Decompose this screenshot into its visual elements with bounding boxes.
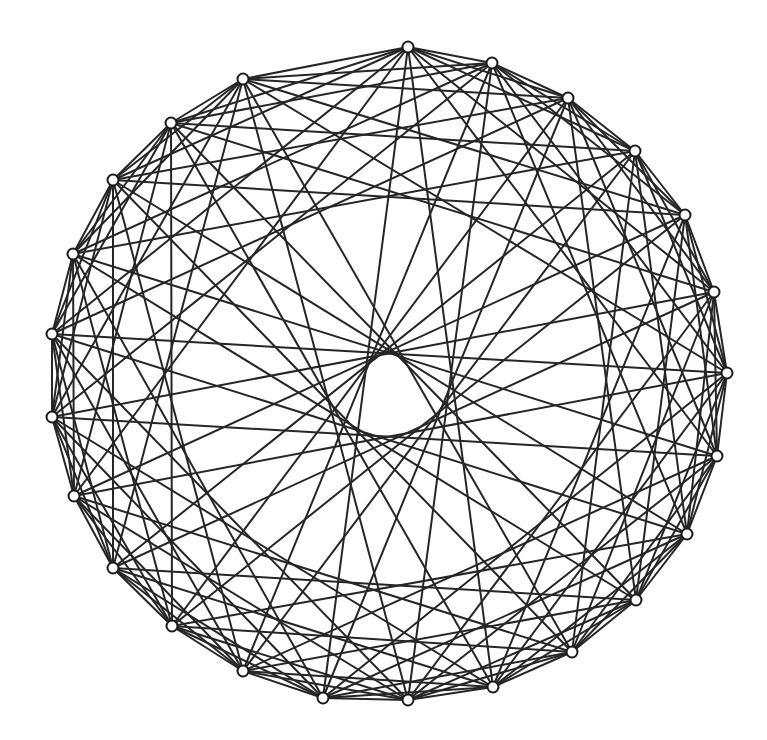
- graph-node[interactable]: [47, 412, 58, 423]
- graph-node[interactable]: [166, 118, 177, 129]
- graph-edge: [171, 123, 172, 626]
- graph-node[interactable]: [108, 175, 119, 186]
- graph-node[interactable]: [563, 93, 574, 104]
- graph-node[interactable]: [680, 210, 691, 221]
- graph-node[interactable]: [108, 563, 119, 574]
- graph-node[interactable]: [631, 595, 642, 606]
- graph-node[interactable]: [488, 682, 499, 693]
- graph-node[interactable]: [722, 368, 733, 379]
- figure-container: [0, 0, 767, 740]
- graph-node[interactable]: [238, 74, 249, 85]
- graph-node[interactable]: [238, 666, 249, 677]
- graph-node[interactable]: [318, 693, 329, 704]
- graph-node[interactable]: [709, 287, 720, 298]
- graph-node[interactable]: [682, 529, 693, 540]
- graph-node[interactable]: [630, 146, 641, 157]
- graph-node[interactable]: [567, 647, 578, 658]
- graph-edge: [73, 254, 74, 496]
- circular-graph-diagram: [0, 0, 767, 740]
- graph-node[interactable]: [487, 58, 498, 69]
- graph-node[interactable]: [167, 621, 178, 632]
- graph-node[interactable]: [403, 695, 414, 706]
- graph-node[interactable]: [403, 42, 414, 53]
- graph-node[interactable]: [47, 329, 58, 340]
- graph-node[interactable]: [69, 491, 80, 502]
- graph-node[interactable]: [68, 249, 79, 260]
- graph-node[interactable]: [712, 451, 723, 462]
